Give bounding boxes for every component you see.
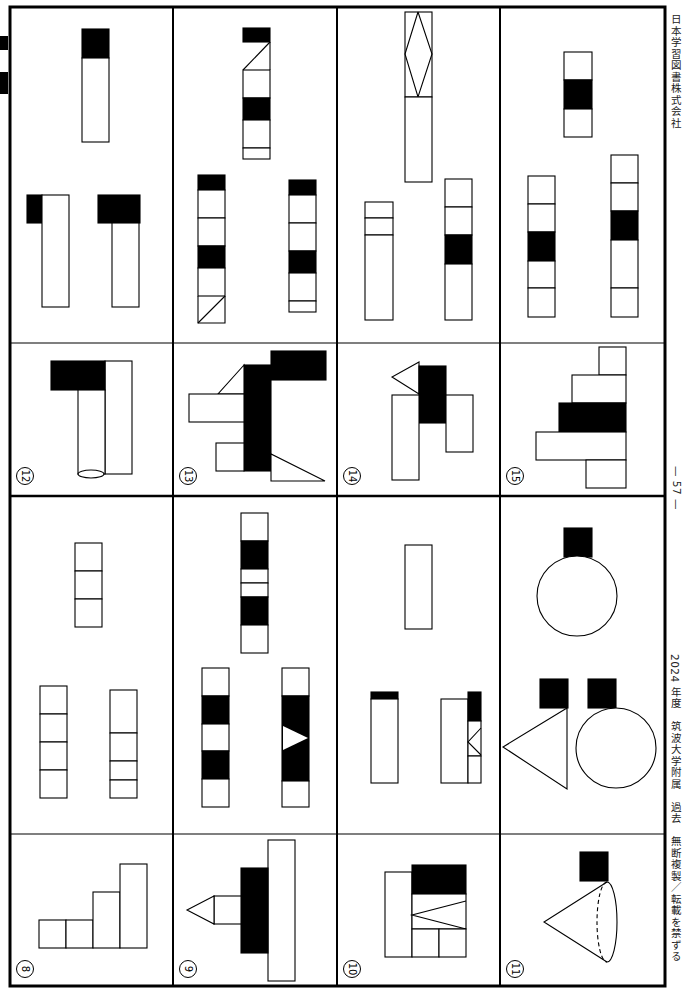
black-block (241, 868, 268, 953)
white-block (405, 12, 432, 97)
white-block (441, 699, 468, 783)
black-block (289, 251, 316, 273)
line-segment (243, 42, 270, 70)
white-block (405, 97, 432, 182)
white-block (110, 780, 137, 798)
black-block (243, 28, 270, 42)
cylinder-base (78, 470, 104, 478)
white-block (365, 235, 393, 320)
black-block (371, 692, 398, 699)
white-block (586, 460, 626, 488)
black-block (271, 351, 326, 380)
white-block (446, 395, 473, 452)
white-block (241, 625, 268, 653)
white-block (365, 202, 393, 218)
white-block (371, 699, 398, 783)
white-block (385, 872, 412, 957)
black-block (82, 29, 109, 58)
circle-shape (576, 708, 656, 788)
circle-shape (537, 556, 617, 636)
white-block (198, 218, 225, 246)
white-block (202, 779, 229, 807)
white-block (112, 223, 139, 307)
problem-number-label: 15 (506, 467, 524, 485)
white-block (198, 268, 225, 296)
white-block (611, 240, 638, 288)
triangle (271, 454, 325, 481)
white-block (468, 756, 481, 783)
black-block (540, 679, 568, 708)
white-block (528, 204, 555, 232)
white-block (202, 724, 229, 751)
white-block (392, 395, 419, 480)
white-block (572, 375, 626, 403)
problem-number-label: 13 (179, 467, 197, 485)
black-block (412, 865, 466, 894)
white-block (564, 52, 592, 80)
white-block (110, 690, 137, 733)
black-block (202, 751, 229, 779)
problem-number-label: 11 (506, 960, 524, 978)
exam-page: 日本学習図書株式会社 — 57 — 2024 年度 筑波大学附属 過去 無断複製… (0, 0, 683, 989)
black-block (419, 366, 446, 423)
white-block (536, 432, 626, 460)
white-block (289, 273, 316, 301)
white-block (289, 195, 316, 223)
white-block (75, 543, 102, 571)
white-block (611, 155, 638, 183)
black-block (289, 180, 316, 195)
black-block (241, 541, 268, 569)
white-block (189, 394, 244, 422)
copyright-footer: 2024 年度 筑波大学附属 過去 無断複製／転載を禁ずる (669, 654, 683, 963)
white-block (202, 668, 229, 696)
white-block (439, 929, 466, 957)
white-block (110, 761, 137, 780)
triangle (218, 365, 244, 394)
white-block (241, 583, 268, 597)
white-block (93, 892, 120, 948)
white-block (42, 195, 69, 307)
cone-base-front (607, 882, 617, 962)
white-block (445, 179, 472, 207)
white-block (412, 929, 439, 957)
problem-number-label: 14 (343, 467, 361, 485)
white-block (289, 301, 316, 312)
white-block (282, 781, 309, 807)
line-segment (198, 296, 225, 323)
figure-canvas (0, 0, 683, 989)
problem-number-label: 12 (16, 467, 34, 485)
white-block (599, 347, 626, 375)
white-block (445, 264, 472, 320)
white-block (40, 714, 67, 742)
problem-number-label: 9 (179, 960, 197, 978)
black-block (98, 195, 140, 223)
black-block (244, 365, 271, 471)
black-block (202, 696, 229, 724)
black-block (588, 679, 616, 708)
white-block (40, 770, 67, 798)
white-block (40, 742, 67, 770)
publisher-name: 日本学習図書株式会社 (669, 14, 683, 129)
white-block (412, 894, 466, 929)
white-block (66, 920, 93, 948)
black-block (559, 403, 626, 432)
white-block (268, 840, 295, 981)
black-block (580, 852, 608, 881)
white-block (289, 223, 316, 251)
white-block (528, 176, 555, 204)
triangle (187, 896, 214, 924)
black-block (445, 235, 472, 264)
white-block (214, 896, 241, 924)
white-block (216, 443, 244, 471)
white-block (75, 571, 102, 599)
black-block (241, 597, 268, 625)
white-block (105, 361, 132, 474)
white-block (75, 599, 102, 627)
white-block (564, 109, 592, 137)
black-block (564, 80, 592, 109)
problem-number-label: 8 (16, 960, 34, 978)
black-block (528, 232, 555, 261)
white-block (282, 668, 309, 696)
white-block (611, 183, 638, 211)
white-block (82, 58, 109, 142)
